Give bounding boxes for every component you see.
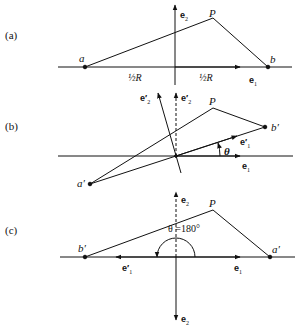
diagram-canvas xyxy=(0,0,300,328)
panel-label-a: (a) xyxy=(5,30,17,41)
e2-prime-rotated-label: e′2 xyxy=(140,92,150,105)
theta-180-label: θ =180° xyxy=(168,224,200,234)
point-label-a: a xyxy=(79,53,85,64)
e1-label-a: e1 xyxy=(249,74,257,87)
point-b-prime-c xyxy=(83,255,87,259)
e1-label-b: e1 xyxy=(242,160,250,173)
e2-up-label-c: e2 xyxy=(181,194,189,207)
point-a xyxy=(83,65,87,69)
diagram-figure: (a) a b P e2 e1 ½R ½R (b) a′ b′ P e′2 e′… xyxy=(0,0,300,328)
theta-label-b: θ xyxy=(224,146,230,157)
e1-prime-label-c: e′1 xyxy=(122,262,132,275)
point-label-b-prime-b: b′ xyxy=(271,122,279,133)
point-label-a-prime-c: a′ xyxy=(272,244,280,255)
triangle-path-a xyxy=(85,18,268,67)
point-label-p-a: P xyxy=(209,8,216,19)
point-label-a-prime-b: a′ xyxy=(77,178,85,189)
panel-label-c: (c) xyxy=(5,225,17,236)
half-r-right-label: ½R xyxy=(199,73,213,83)
panel-label-b: (b) xyxy=(5,121,18,132)
e2-down-label-c: e2 xyxy=(181,313,189,326)
point-label-b: b xyxy=(270,54,276,65)
origin-b xyxy=(175,155,178,158)
e1-prime-label-b: e′1 xyxy=(240,136,250,149)
panel-c-geometry xyxy=(60,192,295,320)
panel-a-geometry xyxy=(58,5,292,85)
point-b xyxy=(266,65,270,69)
e2-label-a: e2 xyxy=(180,9,188,22)
point-label-p-c: P xyxy=(209,198,216,209)
e1-label-c: e1 xyxy=(234,262,242,275)
point-label-b-prime-c: b′ xyxy=(78,243,86,254)
point-a-prime-b xyxy=(88,182,92,186)
point-label-p-b: P xyxy=(209,96,216,107)
triangle-path-b xyxy=(90,108,265,184)
theta-arc xyxy=(218,143,220,156)
point-a-prime-c xyxy=(268,255,272,259)
e2-prime-dashed-label: e′2 xyxy=(181,92,191,105)
half-r-left-label: ½R xyxy=(128,73,142,83)
panel-b-geometry xyxy=(58,93,293,186)
point-b-prime-b xyxy=(263,125,267,129)
